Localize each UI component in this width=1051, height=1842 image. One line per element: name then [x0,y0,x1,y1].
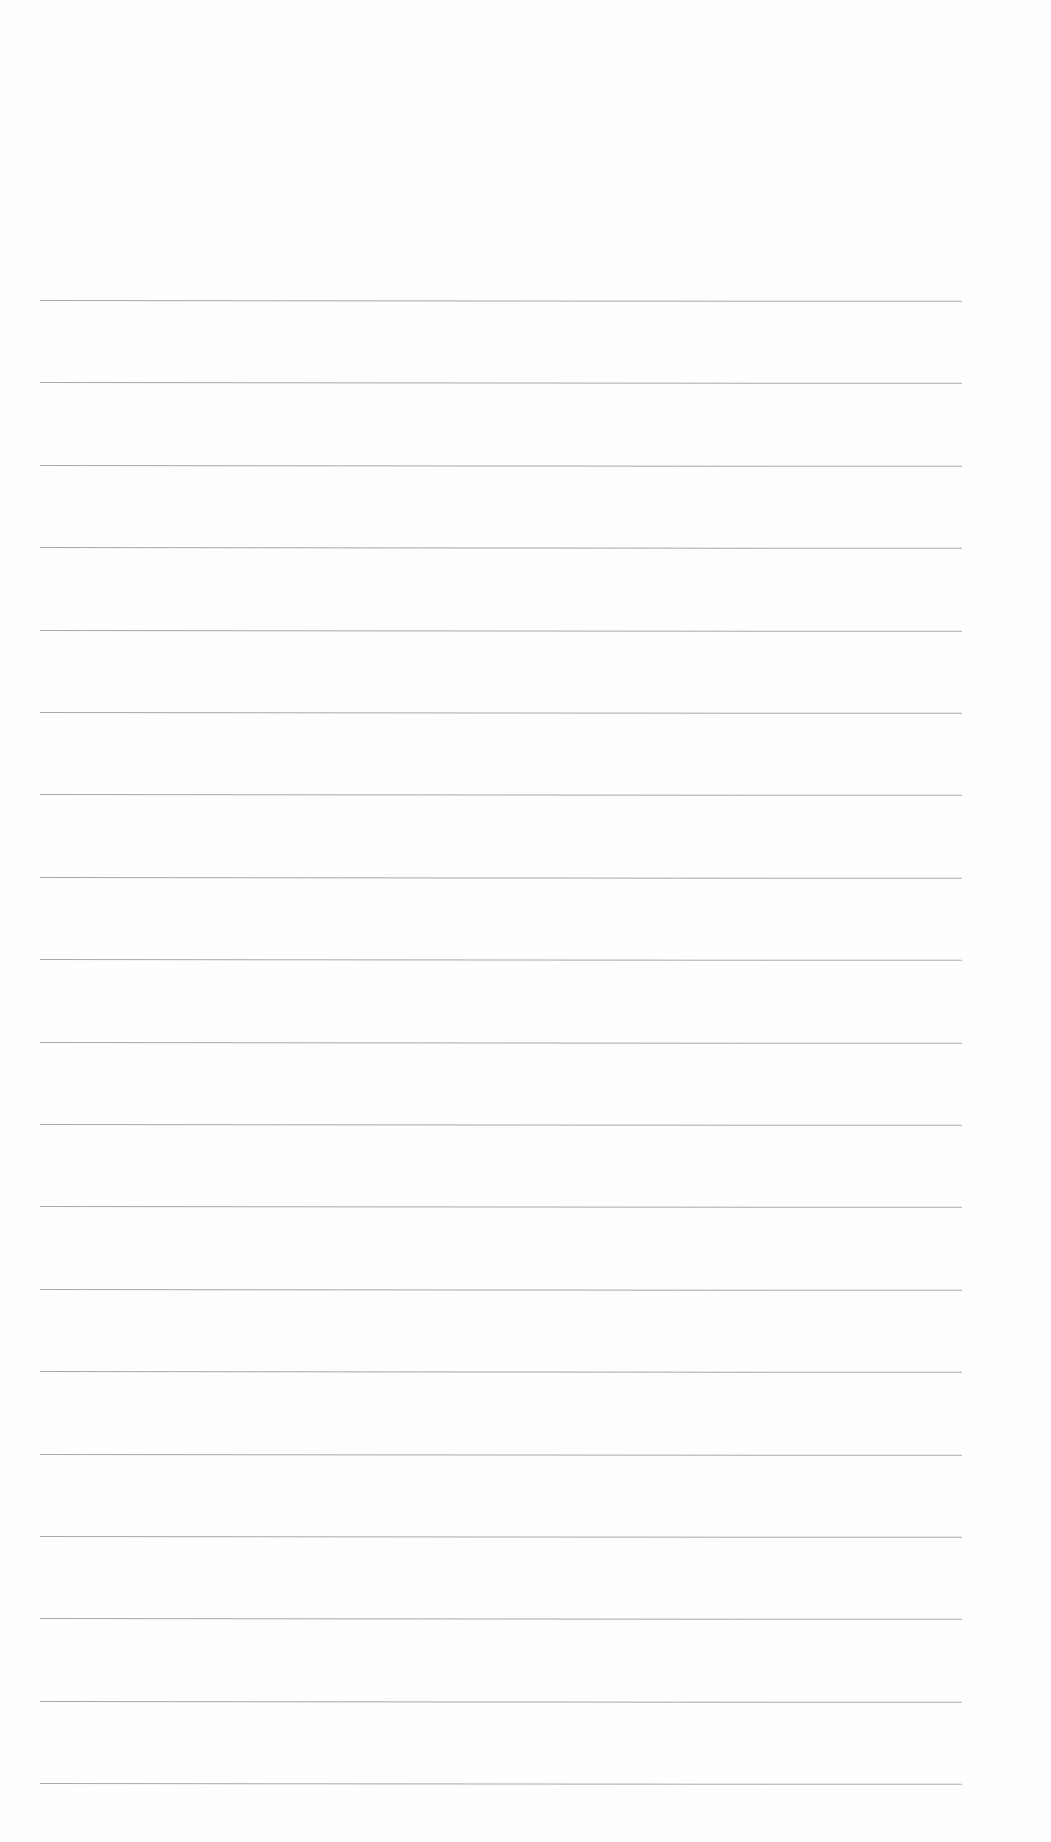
ruled-line [40,630,962,632]
ruled-line [40,547,962,549]
ruled-line [40,382,962,384]
ruled-line [40,300,962,302]
ruled-line [40,1618,962,1620]
ruled-line [40,1124,962,1126]
ruled-line [40,465,962,467]
ruled-line [40,1701,962,1703]
ruled-line [40,712,962,714]
ruled-line [40,1371,962,1373]
ruled-line [40,1042,962,1044]
ruled-line [40,959,962,961]
ruled-paper-page [0,0,1051,1842]
ruled-line [40,877,962,879]
ruled-line [40,1206,962,1208]
ruled-line [40,1536,962,1538]
ruled-line [40,1454,962,1456]
ruled-line [40,1289,962,1291]
ruled-line [40,1783,962,1785]
ruled-line [40,794,962,796]
